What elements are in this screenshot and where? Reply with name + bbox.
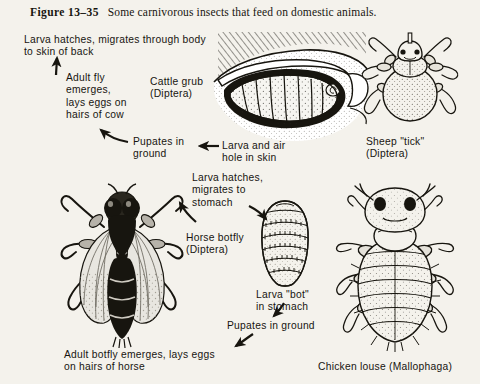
- label-adult-fly-emerges: Adult fly emerges, lays eggs on hairs of…: [66, 72, 127, 122]
- label-larva-hatches-back: Larva hatches, migrates through body to …: [24, 34, 206, 59]
- arrow-up-larva-hatches: [56, 58, 57, 75]
- label-larva-hatches-stomach: Larva hatches, migrates to stomach: [192, 172, 263, 209]
- label-sheep-tick: Sheep "tick" (Diptera): [366, 136, 424, 161]
- label-cattle-grub: Cattle grub (Diptera): [150, 76, 203, 101]
- label-larva-air-hole: Larva and air hole in skin: [222, 140, 285, 165]
- label-pupates-in-ground-horse: Pupates in ground: [227, 320, 315, 332]
- label-horse-botfly: Horse botfly (Diptera): [186, 232, 244, 257]
- label-adult-botfly-emerges: Adult botfly emerges, lays eggs on hairs…: [64, 349, 215, 374]
- label-pupates-in-ground-cow: Pupates in ground: [133, 136, 184, 161]
- label-larva-bot-stomach: Larva "bot" in stomach: [256, 289, 309, 314]
- label-chicken-louse: Chicken louse (Mallophaga): [318, 361, 452, 373]
- arrow-pupates-to-adult-fly: [101, 130, 128, 142]
- figure-plate: Figure 13–35Some carnivorous insects tha…: [0, 0, 480, 384]
- arrow-pupates-to-adult-botfly: [236, 334, 253, 346]
